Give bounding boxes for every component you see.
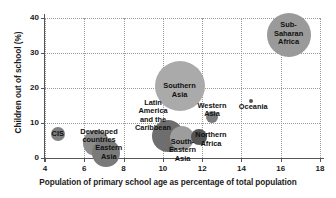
y-axis-tick (41, 123, 45, 124)
x-axis-tick (202, 158, 203, 162)
y-axis-tick (41, 88, 45, 89)
bubble-label: Western Asia (197, 101, 226, 118)
gridline-vertical (320, 18, 321, 158)
x-axis-tick (45, 158, 46, 162)
x-axis-tick (84, 158, 85, 162)
x-axis-tick-label: 10 (151, 164, 175, 173)
x-axis-tick (241, 158, 242, 162)
x-axis-tick (281, 158, 282, 162)
y-axis-tick-label: 20 (17, 83, 39, 92)
gridline-vertical (124, 18, 125, 158)
x-axis-tick (163, 158, 164, 162)
x-axis-title: Population of primary school age as perc… (0, 178, 336, 187)
x-axis-tick-label: 8 (112, 164, 136, 173)
bubble-label: Northern Africa (195, 131, 226, 148)
x-axis-tick (320, 158, 321, 162)
bubble-label: Sub- Saharan Africa (274, 21, 303, 46)
bubble-chart: Children out of school (%) 4681012141618… (0, 0, 336, 198)
x-axis-tick-label: 12 (190, 164, 214, 173)
x-axis-tick-label: 4 (33, 164, 57, 173)
y-axis-tick (41, 18, 45, 19)
gridline-vertical (241, 18, 242, 158)
y-axis-tick (41, 158, 45, 159)
x-axis-tick-label: 6 (72, 164, 96, 173)
x-axis-tick (124, 158, 125, 162)
y-axis-tick-label: 30 (17, 48, 39, 57)
bubble-label: Southern Asia (163, 82, 195, 99)
y-axis-tick-label: 40 (17, 13, 39, 22)
bubble-label: Oceania (239, 103, 268, 111)
y-axis-tick (41, 53, 45, 54)
x-axis-tick-label: 16 (269, 164, 293, 173)
plot-area: 4681012141618010203040 CISDeveloped coun… (45, 18, 320, 158)
bubble-label: Developed countries (80, 127, 117, 144)
gridline-horizontal (45, 123, 320, 124)
x-axis-tick-label: 18 (308, 164, 332, 173)
y-axis-tick-label: 10 (17, 118, 39, 127)
y-axis-tick-label: 0 (17, 153, 39, 162)
bubble-label: Eastern Asia (95, 144, 122, 161)
bubble-label: South- Eastern Asia (169, 138, 196, 163)
bubble-label: Latin America and the Caribbean (135, 99, 171, 133)
x-axis-tick-label: 14 (229, 164, 253, 173)
gridline-vertical (45, 18, 46, 158)
bubble-label: CIS (52, 130, 64, 138)
